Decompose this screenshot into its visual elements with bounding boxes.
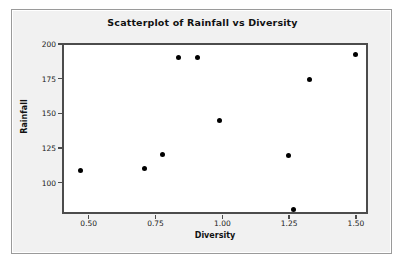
y-axis-tick-labels: 100125150175200 xyxy=(20,43,56,214)
x-axis-tick-label: 1.00 xyxy=(214,219,231,228)
scatterplot-figure: Scatterplot of Rainfall vs Diversity Rai… xyxy=(0,0,405,267)
x-axis-tick-label: 1.50 xyxy=(348,219,365,228)
data-point xyxy=(217,118,222,123)
x-axis-tick-label: 0.75 xyxy=(147,219,164,228)
data-point xyxy=(195,55,200,60)
plot-frame xyxy=(62,43,368,214)
y-axis-tick-label: 125 xyxy=(42,143,56,152)
plot-area xyxy=(64,45,366,212)
y-axis-tick-label: 200 xyxy=(42,39,56,48)
y-axis-tick-label: 100 xyxy=(42,178,56,187)
data-point xyxy=(307,77,312,82)
data-point xyxy=(142,166,147,171)
data-point xyxy=(78,168,83,173)
data-point xyxy=(286,153,291,158)
y-axis-tick-label: 150 xyxy=(42,109,56,118)
data-point xyxy=(291,207,296,212)
x-axis-tick-label: 0.50 xyxy=(80,219,97,228)
chart-title: Scatterplot of Rainfall vs Diversity xyxy=(0,17,405,28)
x-axis-title: Diversity xyxy=(62,231,368,240)
x-axis-tick-label: 1.25 xyxy=(281,219,298,228)
data-point xyxy=(160,152,165,157)
data-point xyxy=(176,55,181,60)
y-axis-tick-label: 175 xyxy=(42,74,56,83)
data-point xyxy=(353,52,358,57)
x-axis-tick-labels: 0.500.751.001.251.50 xyxy=(0,219,405,231)
